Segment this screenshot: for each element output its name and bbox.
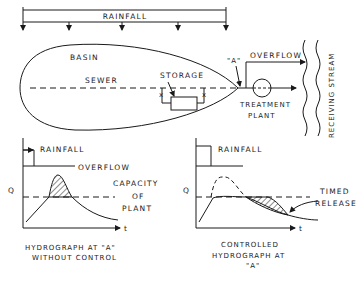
right-rainfall-label: RAINFALL	[218, 145, 263, 154]
left-caption-2: WITHOUT CONTROL	[32, 254, 117, 262]
sewer-label: SEWER	[85, 76, 118, 85]
basin-outline	[20, 44, 238, 130]
left-x-axis-label: t	[124, 224, 128, 233]
rainfall-label: RAINFALL	[103, 12, 148, 21]
right-caption-1: CONTROLLED	[221, 241, 279, 249]
treatment-label-1: TREATMENT	[239, 101, 291, 109]
right-x-axis-label: t	[299, 224, 303, 233]
right-caption-3: "A"	[246, 262, 260, 270]
capacity-label-1: CAPACITY	[113, 179, 159, 188]
left-caption-1: HYDROGRAPH AT "A"	[25, 244, 116, 252]
stream-bank-left	[303, 40, 307, 136]
left-overflow-label: OVERFLOW	[78, 163, 130, 172]
storage-tank	[171, 97, 197, 110]
storage-label: STORAGE	[160, 71, 204, 80]
treatment-label-2: PLANT	[248, 112, 276, 120]
left-rainfall-label: RAINFALL	[40, 145, 85, 154]
left-y-axis-label: Q	[8, 186, 15, 195]
timed-label-1: TIMED	[319, 187, 350, 196]
basin-label: BASIN	[70, 53, 99, 62]
capacity-label-2: OF	[132, 192, 145, 201]
right-caption-2: HYDROGRAPH AT	[212, 252, 285, 260]
receiving-stream-label: RECEIVING STREAM	[328, 53, 336, 138]
capacity-label-3: PLANT	[122, 204, 152, 213]
stormwater-storage-diagram: RAINFALL BASIN SEWER STORAGE x x "A" OVE…	[0, 0, 362, 281]
right-y-axis-label: Q	[183, 186, 190, 195]
overflow-label: OVERFLOW	[250, 51, 302, 60]
valve-mark-right: x	[202, 91, 207, 99]
valve-mark-left: x	[159, 91, 164, 99]
timed-label-2: RELEASE	[315, 199, 357, 208]
stream-bank-right	[316, 40, 320, 136]
point-a-label: "A"	[227, 57, 241, 65]
